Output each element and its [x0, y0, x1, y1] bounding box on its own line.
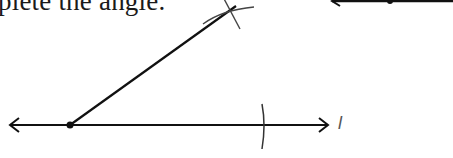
base-line [10, 118, 328, 132]
reference-angle-line [332, 0, 453, 6]
angle-ray [70, 6, 236, 125]
worksheet-fragment: plete the angle. l [0, 0, 453, 158]
angle-construction-figure [0, 0, 453, 158]
reference-vertex-point [387, 0, 393, 4]
compass-arc-upper [203, 7, 254, 24]
compass-arc-base [262, 104, 264, 149]
line-label: l [338, 113, 342, 134]
